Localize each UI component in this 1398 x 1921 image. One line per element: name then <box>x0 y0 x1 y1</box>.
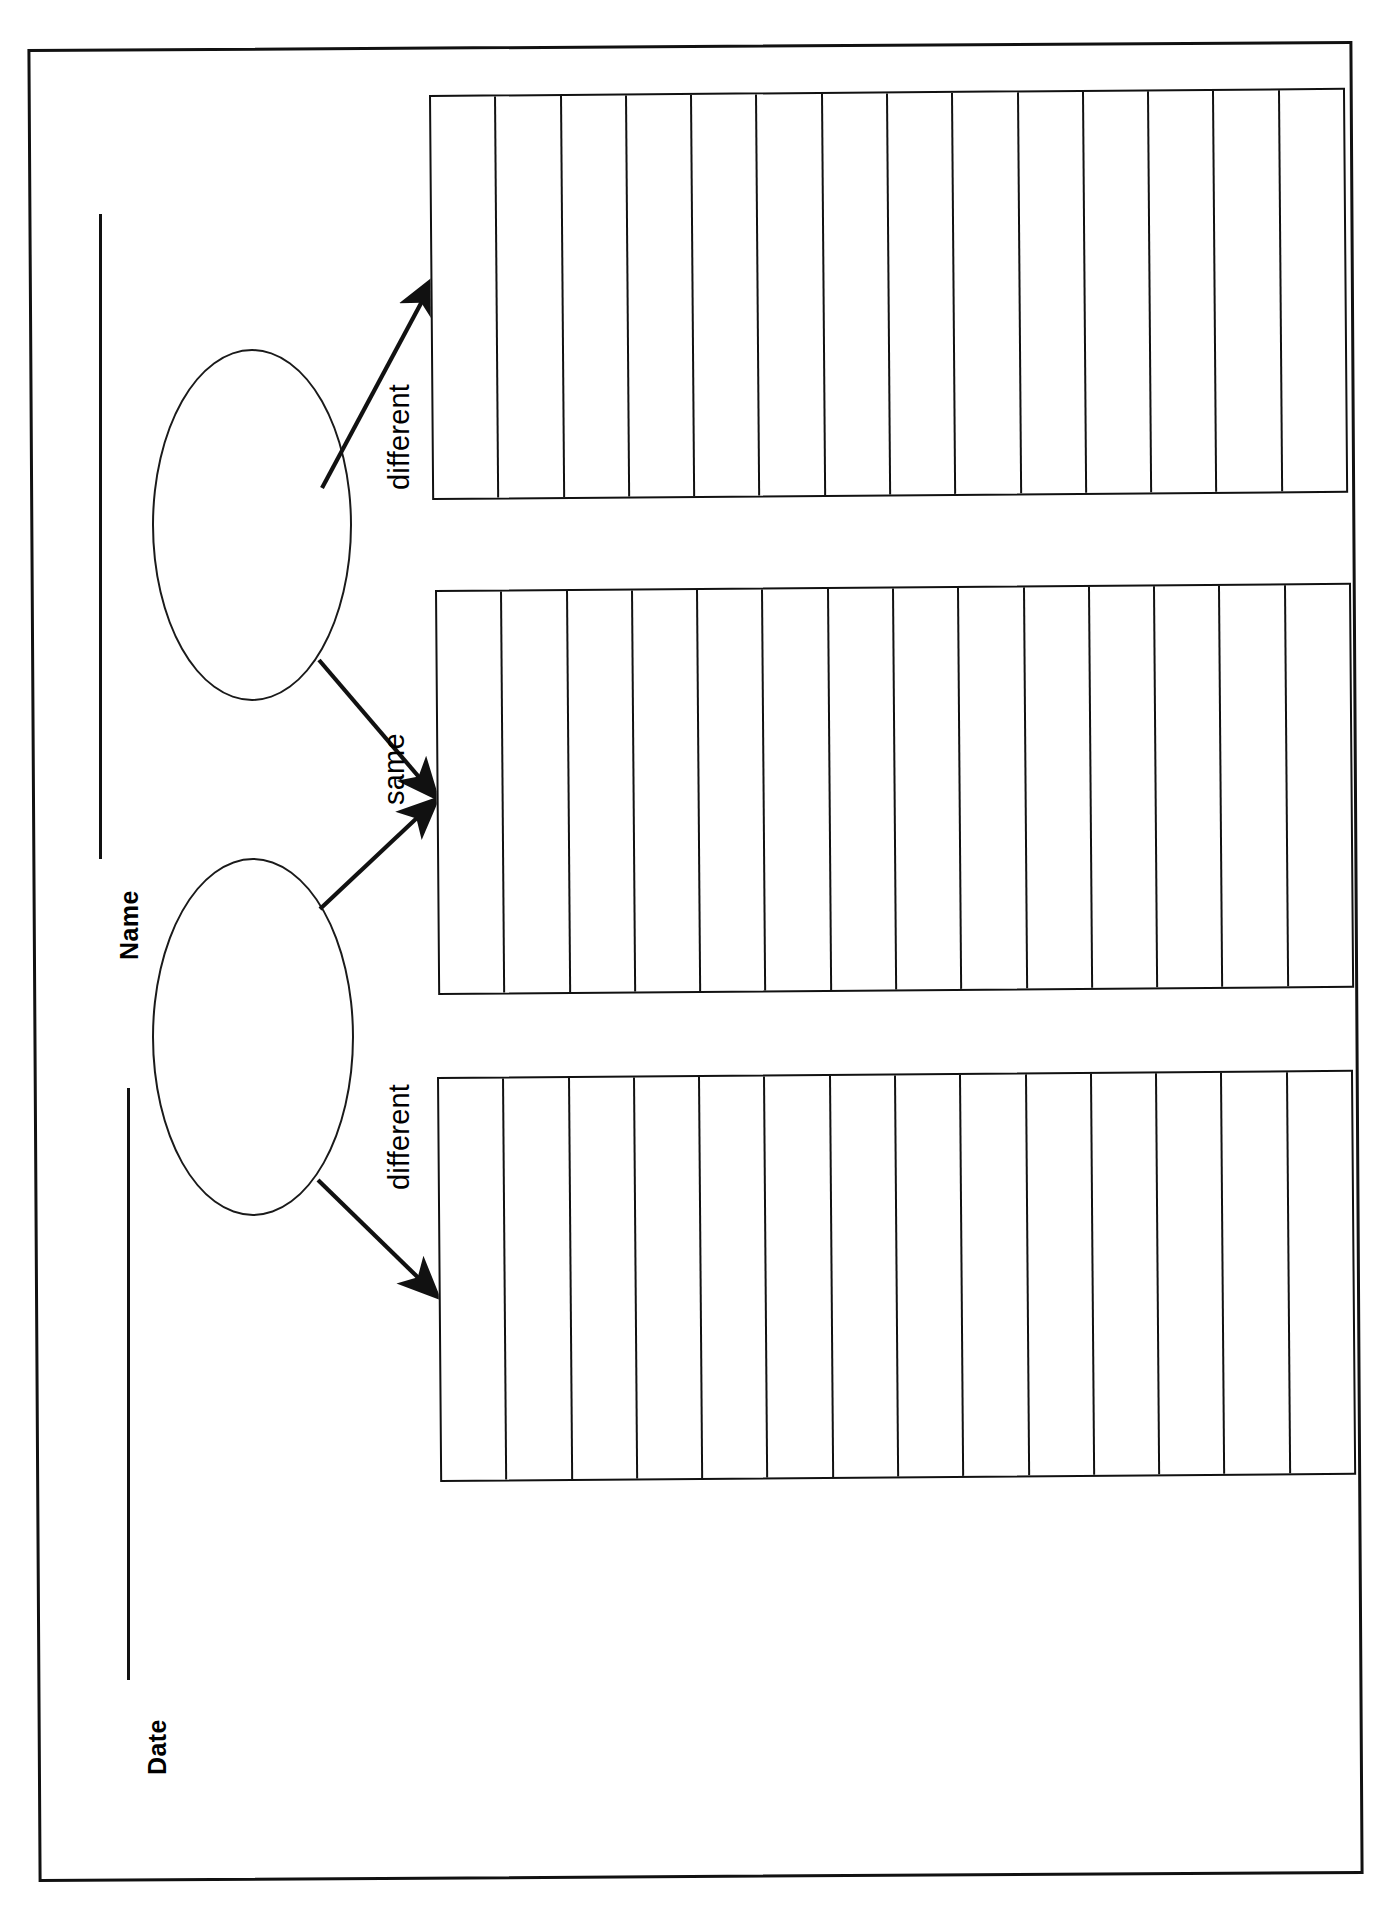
writing-column[interactable] <box>568 590 636 992</box>
writing-column[interactable] <box>1280 90 1346 491</box>
writing-column[interactable] <box>765 1076 833 1478</box>
writing-column[interactable] <box>1214 90 1282 492</box>
writing-column[interactable] <box>437 591 505 993</box>
lined-box-3[interactable] <box>437 1070 1356 1482</box>
writing-column[interactable] <box>570 1077 638 1479</box>
date-field-label: Date <box>143 1719 172 1775</box>
writing-column[interactable] <box>502 591 570 993</box>
writing-column[interactable] <box>1288 1072 1354 1473</box>
writing-column[interactable] <box>763 589 831 991</box>
writing-column[interactable] <box>1157 1073 1225 1475</box>
name-field-label: Name <box>115 890 144 960</box>
writing-column[interactable] <box>504 1078 572 1480</box>
connector-label-different-bottom: different <box>383 1084 416 1190</box>
writing-column[interactable] <box>1286 585 1352 986</box>
writing-column[interactable] <box>1222 1072 1290 1474</box>
lined-box-1[interactable] <box>429 88 1348 500</box>
writing-column[interactable] <box>700 1076 768 1478</box>
writing-column[interactable] <box>894 588 962 990</box>
topic-bubble-2[interactable] <box>152 858 354 1216</box>
connector-label-different-top: different <box>383 384 416 490</box>
writing-column[interactable] <box>1027 1074 1095 1476</box>
writing-column[interactable] <box>633 590 701 992</box>
writing-column[interactable] <box>562 95 630 497</box>
writing-column[interactable] <box>896 1075 964 1477</box>
writing-column[interactable] <box>888 93 956 495</box>
writing-column[interactable] <box>1019 92 1087 494</box>
writing-column[interactable] <box>431 96 499 498</box>
name-write-in-rule[interactable] <box>99 214 102 859</box>
writing-column[interactable] <box>627 95 695 497</box>
writing-column[interactable] <box>829 588 897 990</box>
writing-column[interactable] <box>496 96 564 498</box>
writing-column[interactable] <box>831 1075 899 1477</box>
writing-column[interactable] <box>635 1077 703 1479</box>
writing-column[interactable] <box>757 94 825 496</box>
topic-bubble-1[interactable] <box>152 349 352 701</box>
writing-column[interactable] <box>959 587 1027 989</box>
worksheet-page: Name Date different same different <box>0 0 1398 1921</box>
writing-column[interactable] <box>439 1078 507 1480</box>
lined-box-2[interactable] <box>435 583 1354 995</box>
writing-column[interactable] <box>1220 585 1288 987</box>
writing-column[interactable] <box>692 94 760 496</box>
connector-label-same: same <box>378 733 411 805</box>
writing-column[interactable] <box>953 92 1021 494</box>
writing-column[interactable] <box>1149 91 1217 493</box>
writing-column[interactable] <box>698 589 766 991</box>
writing-column[interactable] <box>1084 91 1152 493</box>
writing-column[interactable] <box>1025 587 1093 989</box>
writing-column[interactable] <box>1155 586 1223 988</box>
writing-column[interactable] <box>823 93 891 495</box>
writing-column[interactable] <box>1090 586 1158 988</box>
writing-column[interactable] <box>961 1074 1029 1476</box>
date-write-in-rule[interactable] <box>127 1088 130 1680</box>
writing-column[interactable] <box>1092 1073 1160 1475</box>
